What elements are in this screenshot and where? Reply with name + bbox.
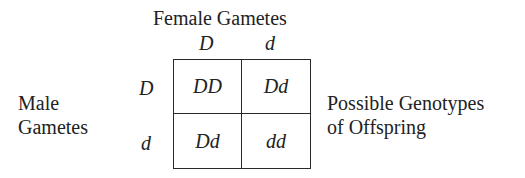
male-gametes-label-line1: Male (18, 91, 59, 115)
female-allele-1: D (199, 32, 213, 55)
cell-dd: dd (242, 114, 310, 168)
female-allele-2: d (265, 32, 275, 55)
punnett-grid: DD Dd Dd dd (173, 59, 311, 169)
offspring-label-line1: Possible Genotypes (327, 91, 484, 115)
cell-Dd-top: Dd (242, 60, 310, 114)
male-gametes-label-line2: Gametes (18, 115, 88, 139)
offspring-label-line2: of Offspring (327, 115, 426, 139)
cell-DD: DD (174, 60, 242, 114)
female-gametes-label: Female Gametes (153, 6, 287, 30)
cell-Dd-bottom: Dd (174, 114, 242, 168)
male-allele-1: D (139, 77, 153, 100)
male-allele-2: d (141, 132, 151, 155)
